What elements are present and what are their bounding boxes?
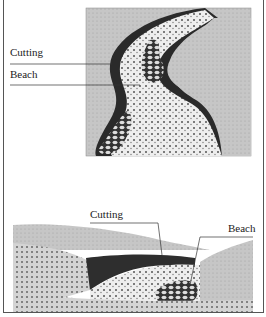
bottom-beach-label: Beach <box>228 222 255 234</box>
bottom-cutting-label: Cutting <box>90 208 123 220</box>
plan-view-diagram <box>86 8 251 156</box>
top-cutting-label: Cutting <box>10 46 43 58</box>
cross-section-diagram <box>13 223 253 312</box>
top-beach-label: Beach <box>10 68 37 80</box>
